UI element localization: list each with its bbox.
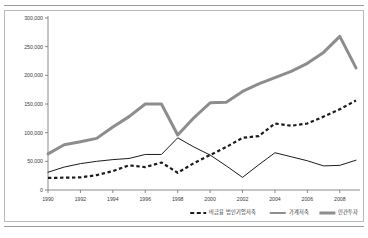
bottom-horizontal-rule — [4, 226, 364, 227]
y-axis-tick-label: 300,000 — [24, 15, 43, 21]
y-axis-tick-label: 250,000 — [24, 44, 43, 50]
x-axis-tick-label: 1990 — [42, 196, 54, 202]
y-axis-tick-label: 100,000 — [24, 130, 43, 136]
x-axis-tick-label: 2000 — [204, 196, 216, 202]
y-axis-tick-label: 150,000 — [24, 101, 43, 107]
x-axis-tick-label: 2002 — [237, 196, 249, 202]
y-axis-tick-label: 200,000 — [24, 72, 43, 78]
x-axis-tick-label: 1992 — [75, 196, 87, 202]
chart-page: 050,000100,000150,000200,000250,000300,0… — [0, 0, 368, 238]
y-axis-tick-label: 0 — [40, 187, 43, 193]
line-chart: 050,000100,000150,000200,000250,000300,0… — [4, 10, 364, 222]
x-axis-tick-label: 1996 — [139, 196, 151, 202]
legend-label: 가계저축 — [289, 208, 309, 216]
chart-figure: 050,000100,000150,000200,000250,000300,0… — [4, 10, 364, 222]
legend-label: 비금융 법인기업저축 — [209, 208, 256, 216]
x-axis-tick-label: 1998 — [172, 196, 184, 202]
x-axis-tick-label: 2006 — [302, 196, 314, 202]
y-axis-tick-label: 50,000 — [27, 158, 43, 164]
top-horizontal-rule — [4, 5, 364, 6]
legend-label: 민간투자 — [338, 208, 358, 216]
x-axis-tick-label: 2004 — [269, 196, 281, 202]
x-axis-tick-label: 1994 — [107, 196, 119, 202]
x-axis-tick-label: 2008 — [334, 196, 346, 202]
